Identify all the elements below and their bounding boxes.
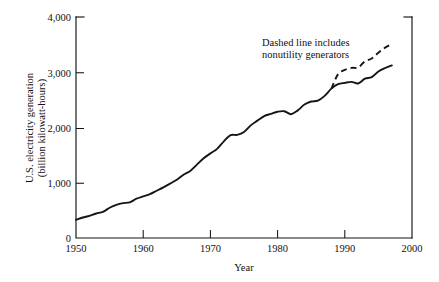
y-axis-ticks: [76, 73, 84, 184]
axis-left-bottom: [76, 17, 412, 238]
y-axis-tick-labels: 4,000 3,000 2,000 1,000 0: [47, 12, 71, 244]
ytick-label-3000: 3,000: [47, 68, 71, 79]
line-chart: 4,000 3,000 2,000 1,000 0 1950 1960 1970…: [0, 0, 439, 282]
xtick-label-2000: 2000: [402, 243, 423, 254]
ytick-label-1000: 1,000: [47, 178, 71, 189]
y-axis-title: U.S. electricity generation (billion kil…: [24, 72, 48, 183]
dashed-line-annotation: Dashed line includes nonutility generato…: [262, 37, 349, 60]
y-axis-title-line2: (billion kilowatt-hours): [36, 78, 48, 177]
xtick-label-1960: 1960: [133, 243, 154, 254]
xtick-label-1980: 1980: [267, 243, 288, 254]
xtick-label-1990: 1990: [334, 243, 355, 254]
x-axis-tick-labels: 1950 1960 1970 1980 1990 2000: [66, 243, 423, 254]
axis-frame: [76, 17, 412, 238]
x-axis-title: Year: [234, 262, 254, 273]
xtick-label-1950: 1950: [66, 243, 87, 254]
ytick-label-2000: 2,000: [47, 123, 71, 134]
y-axis-title-line1: U.S. electricity generation: [24, 72, 35, 183]
series-utility-line: [76, 65, 392, 219]
annotation-line2: nonutility generators: [262, 49, 349, 60]
xtick-label-1970: 1970: [200, 243, 221, 254]
ytick-label-4000: 4,000: [47, 12, 71, 23]
chart-figure: 4,000 3,000 2,000 1,000 0 1950 1960 1970…: [0, 0, 439, 282]
annotation-line1: Dashed line includes: [262, 37, 349, 48]
x-axis-ticks: [143, 230, 345, 238]
